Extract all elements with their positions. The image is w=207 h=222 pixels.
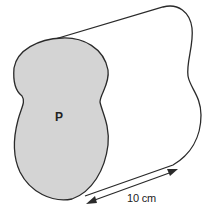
face-label: P bbox=[55, 110, 63, 124]
prism-diagram bbox=[0, 0, 207, 222]
length-label: 10 cm bbox=[127, 192, 156, 204]
arrowhead-start-icon bbox=[86, 196, 97, 204]
arrowhead-end-icon bbox=[167, 169, 178, 176]
